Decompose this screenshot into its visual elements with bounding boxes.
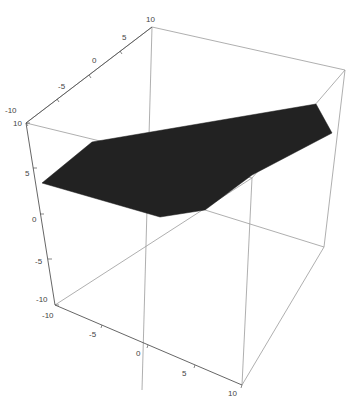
bottom-tick-10: 10	[228, 389, 237, 398]
bottom-axis-line	[55, 305, 242, 385]
left-tick-0: 0	[32, 215, 37, 224]
surface-polygon	[42, 104, 332, 217]
bottom-tick-m5: -5	[89, 330, 97, 339]
top-tick-10: 10	[146, 15, 155, 24]
left-tick-10: 10	[13, 119, 22, 128]
tick-marks	[26, 51, 242, 388]
top-tick-m5: -5	[58, 82, 66, 91]
bottom-tick-m10: -10	[42, 311, 54, 320]
box-edge-bottom-right	[242, 247, 324, 385]
box-edge-front-vertical	[242, 178, 252, 385]
left-tick-m5: -5	[35, 257, 43, 266]
3d-plot: -10 -5 0 5 10 10 5 0 -5 -10 -10 -5 0 5 1…	[0, 0, 353, 414]
top-tick-m10: -10	[5, 106, 17, 115]
bottom-tick-5: 5	[182, 369, 187, 378]
top-tick-5: 5	[122, 33, 127, 42]
box-edge-bottom-right-back	[205, 210, 324, 247]
bottom-tick-0: 0	[136, 349, 141, 358]
left-tick-5: 5	[25, 169, 30, 178]
box-edge-right-vertical	[324, 70, 345, 247]
left-tick-m10: -10	[36, 295, 48, 304]
top-tick-0: 0	[92, 56, 97, 65]
box-edge-top-back	[152, 27, 345, 70]
